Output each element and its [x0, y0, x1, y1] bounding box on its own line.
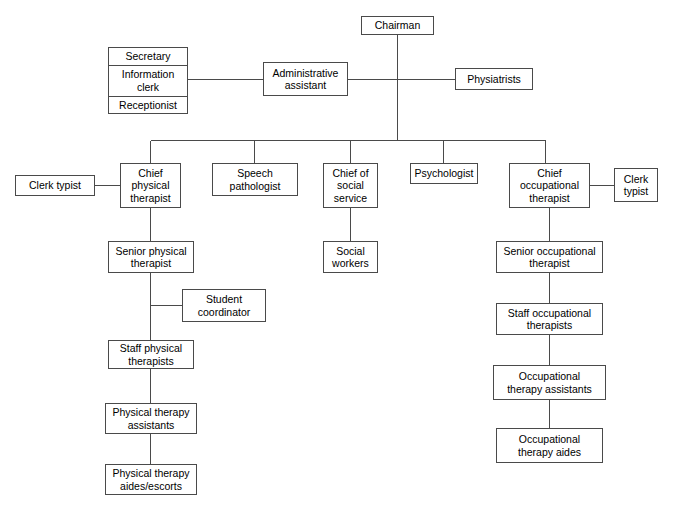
node-staff-physical-therapists[interactable]: Staff physicaltherapists	[108, 340, 194, 369]
support-staff-stack: Secretary Informationclerk Receptionist	[108, 47, 188, 114]
node-secretary[interactable]: Secretary	[109, 48, 187, 65]
node-occupational-therapy-assistants[interactable]: Occupationaltherapy assistants	[493, 365, 606, 400]
node-administrative-assistant[interactable]: Administrativeassistant	[263, 62, 348, 96]
node-staff-occupational-therapists[interactable]: Staff occupationaltherapists	[496, 303, 603, 335]
node-occupational-therapy-aides[interactable]: Occupationaltherapy aides	[496, 428, 603, 463]
node-psychologist[interactable]: Psychologist	[410, 163, 478, 184]
node-clerk-typist-right[interactable]: Clerktypist	[614, 168, 658, 202]
node-physiatrists[interactable]: Physiatrists	[455, 68, 533, 90]
node-student-coordinator[interactable]: Studentcoordinator	[182, 289, 266, 322]
org-chart: Chairman Secretary Informationclerk Rece…	[0, 0, 675, 511]
node-senior-physical-therapist[interactable]: Senior physicaltherapist	[108, 241, 194, 273]
node-social-workers[interactable]: Socialworkers	[323, 241, 378, 273]
node-chief-physical-therapist[interactable]: Chiefphysicaltherapist	[120, 163, 181, 208]
node-speech-pathologist[interactable]: Speechpathologist	[212, 163, 298, 196]
node-information-clerk[interactable]: Informationclerk	[109, 65, 187, 96]
node-physical-therapy-assistants[interactable]: Physical therapyassistants	[105, 403, 197, 434]
node-senior-occupational-therapist[interactable]: Senior occupationaltherapist	[496, 241, 603, 273]
node-receptionist[interactable]: Receptionist	[109, 96, 187, 114]
node-chairman[interactable]: Chairman	[361, 16, 434, 35]
node-physical-therapy-aides[interactable]: Physical therapyaides/escorts	[105, 464, 197, 495]
node-chief-social-service[interactable]: Chief ofsocialservice	[323, 163, 378, 208]
node-chief-occupational-therapist[interactable]: Chiefoccupationaltherapist	[509, 163, 590, 208]
node-clerk-typist-left[interactable]: Clerk typist	[15, 175, 95, 196]
